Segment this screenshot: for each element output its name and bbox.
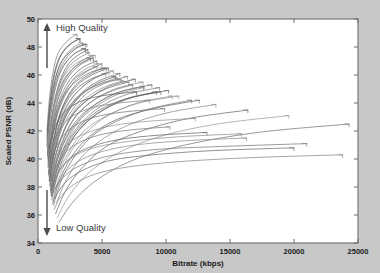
y-tick-label: 36 xyxy=(27,211,35,220)
x-axis-label: Bitrate (kbps) xyxy=(172,259,224,268)
y-tick-label: 48 xyxy=(27,43,35,52)
high-quality-label: High Quality xyxy=(56,22,108,33)
y-tick-label: 50 xyxy=(27,15,35,24)
y-axis-label: Scaled PSNR (dB) xyxy=(4,96,13,165)
x-tick-label: 25000 xyxy=(348,247,369,256)
chart-figure: 0500010000150002000025000 34363840424446… xyxy=(0,0,380,273)
x-tick-label: 10000 xyxy=(156,247,177,256)
y-tick-label: 34 xyxy=(27,239,36,248)
x-tick-label: 20000 xyxy=(284,247,305,256)
y-tick-label: 44 xyxy=(27,99,36,108)
x-tick-label: 15000 xyxy=(220,247,241,256)
y-tick-label: 40 xyxy=(27,155,35,164)
rate-distortion-plot: 0500010000150002000025000 34363840424446… xyxy=(0,0,380,273)
y-tick-label: 46 xyxy=(27,71,35,80)
x-tick-label: 5000 xyxy=(94,247,111,256)
y-tick-label: 38 xyxy=(27,183,35,192)
low-quality-label: Low Quality xyxy=(56,222,106,233)
x-tick-label: 0 xyxy=(36,247,40,256)
y-tick-label: 42 xyxy=(27,127,35,136)
